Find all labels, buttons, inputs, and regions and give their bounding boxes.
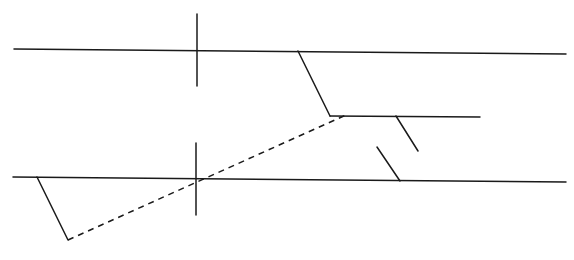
line-diagram xyxy=(0,0,574,260)
lower-horizontal-line xyxy=(13,177,566,182)
middle-horizontal-line xyxy=(330,116,480,117)
middle-short-tick xyxy=(396,116,418,151)
upper-offset-slope xyxy=(298,51,330,116)
upper-horizontal-line xyxy=(14,49,566,54)
lower-short-tick xyxy=(377,147,400,181)
lower-offset-slope xyxy=(37,177,68,240)
